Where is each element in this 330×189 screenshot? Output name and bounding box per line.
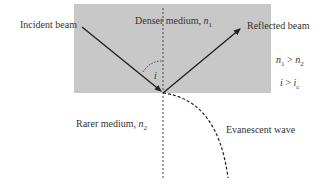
rarer-medium-label: Rarer medium, n2 bbox=[76, 119, 147, 132]
critical-angle-condition: i > ic bbox=[280, 78, 299, 91]
denser-medium-label: Denser medium, n1 bbox=[135, 16, 212, 29]
incident-beam-label: Incident beam bbox=[20, 20, 77, 30]
evanescent-wave-curve bbox=[163, 93, 228, 178]
evanescent-wave-label: Evanescent wave bbox=[226, 125, 295, 135]
refractive-index-condition: n1 > n2 bbox=[276, 55, 304, 68]
reflected-beam-label: Reflected beam bbox=[247, 21, 309, 31]
angle-i-label: i bbox=[154, 71, 157, 81]
